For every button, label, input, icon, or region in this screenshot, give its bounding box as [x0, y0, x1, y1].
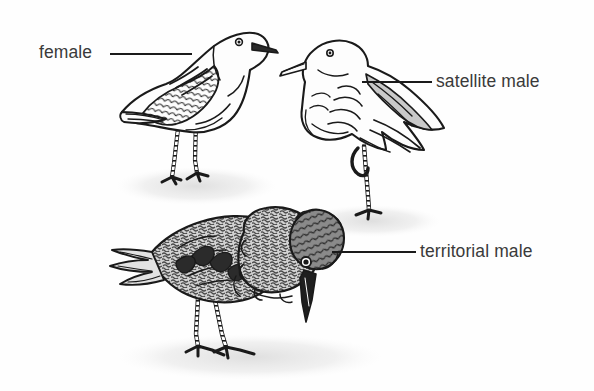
- label-satellite-male: satellite male: [436, 73, 540, 91]
- label-female: female: [39, 44, 92, 62]
- satellite-body: [302, 41, 445, 150]
- bird-female: [120, 33, 278, 184]
- bird-satellite-male: [280, 41, 444, 219]
- label-territorial-male: territorial male: [420, 243, 532, 261]
- territorial-shadow: [118, 334, 382, 380]
- bird-morph-figure: female satellite male territorial male: [0, 0, 594, 391]
